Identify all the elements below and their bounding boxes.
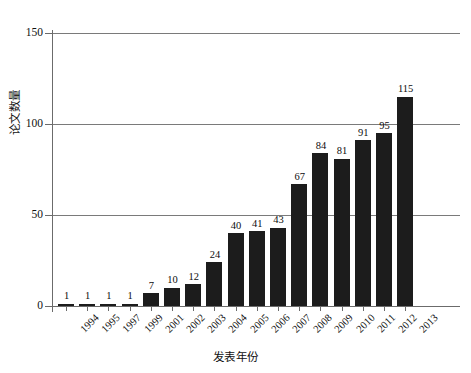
x-tick-2013: [405, 306, 406, 311]
bar: [270, 228, 286, 306]
x-tick-2012: [384, 306, 385, 311]
x-tick-2009: [320, 306, 321, 311]
bar-group: 10: [162, 20, 183, 306]
y-tick-100: [45, 124, 52, 125]
bar-value-label: 1: [120, 291, 141, 302]
y-tick-0: [45, 306, 52, 307]
bar-value-label: 10: [162, 275, 183, 286]
x-tick-label-2004: 2004: [227, 312, 250, 335]
bar-group: 1: [56, 20, 77, 306]
y-tick-label-150: 150: [26, 27, 43, 39]
bar-group: 95: [374, 20, 395, 306]
y-tick-label-100: 100: [26, 118, 43, 130]
bar-group: 1: [77, 20, 98, 306]
x-tick-label-2001: 2001: [163, 312, 186, 335]
bar: [291, 184, 307, 306]
bar-value-label: 91: [353, 128, 374, 139]
bar-value-label: 7: [141, 281, 162, 292]
y-tick-label-0: 0: [37, 300, 43, 312]
x-tick-label-2011: 2011: [375, 312, 397, 334]
x-tick-2002: [172, 306, 173, 311]
x-tick-2008: [299, 306, 300, 311]
x-tick-label-2008: 2008: [311, 312, 334, 335]
bar-group: 7: [141, 20, 162, 306]
bar: [355, 140, 371, 306]
x-tick-2010: [342, 306, 343, 311]
bar-value-label: 40: [226, 221, 247, 232]
bar-value-label: 43: [268, 215, 289, 226]
bar-group: 81: [332, 20, 353, 306]
bar: [376, 133, 392, 306]
x-tick-label-2007: 2007: [290, 312, 313, 335]
bar-group: 84: [310, 20, 331, 306]
bar-value-label: 12: [183, 272, 204, 283]
x-tick-label-2012: 2012: [396, 312, 419, 335]
x-tick-2005: [236, 306, 237, 311]
bar: [228, 233, 244, 306]
x-tick-label-2010: 2010: [354, 312, 377, 335]
bar-group: 91: [353, 20, 374, 306]
bar: [312, 153, 328, 306]
x-tick-1995: [87, 306, 88, 311]
x-tick-label-1994: 1994: [78, 312, 101, 335]
bar-value-label: 24: [204, 250, 225, 261]
bar-group: 1: [98, 20, 119, 306]
bar-value-label: 1: [56, 291, 77, 302]
x-tick-2007: [278, 306, 279, 311]
x-axis-title: 发表年份: [0, 348, 471, 364]
x-tick-label-2005: 2005: [248, 312, 271, 335]
x-tick-label-2006: 2006: [269, 312, 292, 335]
bar: [334, 159, 350, 306]
x-tick-2011: [363, 306, 364, 311]
x-tick-label-2003: 2003: [205, 312, 228, 335]
bar: [143, 293, 159, 306]
bar: [164, 288, 180, 306]
bar-group: 24: [204, 20, 225, 306]
bar-group: 12: [183, 20, 204, 306]
bar-value-label: 41: [247, 219, 268, 230]
bar-group: 1: [120, 20, 141, 306]
x-tick-label-1997: 1997: [121, 312, 144, 335]
x-tick-1999: [130, 306, 131, 311]
x-tick-label-2002: 2002: [184, 312, 207, 335]
bar: [185, 284, 201, 306]
x-tick-label-1999: 1999: [142, 312, 165, 335]
x-tick-2004: [214, 306, 215, 311]
bar-value-label: 67: [289, 172, 310, 183]
x-tick-label-2013: 2013: [417, 312, 440, 335]
x-tick-2003: [193, 306, 194, 311]
y-tick-label-50: 50: [32, 209, 44, 221]
bar: [206, 262, 222, 306]
bar-group: 115: [395, 20, 416, 306]
bar-group: 67: [289, 20, 310, 306]
bar-group: 40: [226, 20, 247, 306]
x-tick-1994: [66, 306, 67, 311]
bar-series: 111171012244041436784819195115: [52, 20, 460, 306]
y-tick-150: [45, 33, 52, 34]
bar-group: 43: [268, 20, 289, 306]
bar-group: 41: [247, 20, 268, 306]
bar: [397, 97, 413, 306]
chart-page: 050100150 论文数量 1111710122440414367848191…: [0, 0, 471, 373]
y-axis-tick-labels: 050100150: [0, 0, 43, 373]
x-tick-1997: [108, 306, 109, 311]
x-tick-label-2009: 2009: [333, 312, 356, 335]
y-tick-50: [45, 215, 52, 216]
bar-value-label: 1: [77, 291, 98, 302]
bar-value-label: 84: [310, 141, 331, 152]
x-tick-label-1995: 1995: [99, 312, 122, 335]
x-tick-2001: [151, 306, 152, 311]
x-tick-2006: [257, 306, 258, 311]
bar-value-label: 1: [98, 291, 119, 302]
y-axis-title: 论文数量: [6, 89, 22, 135]
bar-value-label: 95: [374, 121, 395, 132]
bar: [249, 231, 265, 306]
bar-value-label: 115: [395, 84, 416, 95]
bar-value-label: 81: [332, 146, 353, 157]
